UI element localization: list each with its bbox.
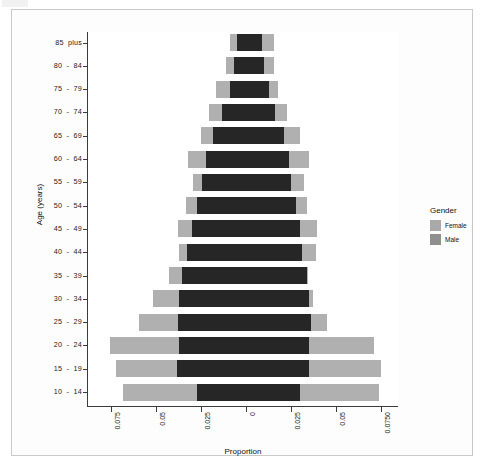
y-axis-tick-label: 25 - 29: [20, 317, 82, 327]
y-axis-tick-label-text: 40 - 44: [54, 247, 82, 256]
y-axis-tick-label-text: 15 - 19: [54, 364, 82, 373]
legend-swatch-female-icon: [430, 220, 441, 231]
bar-male: [197, 384, 300, 401]
x-axis-tick: [381, 407, 382, 412]
bar-male: [197, 197, 296, 214]
x-axis-tick: [336, 407, 337, 412]
y-axis-tick-label: 60 - 64: [20, 154, 82, 164]
legend-title: Gender: [430, 206, 485, 215]
x-axis-title: Proportion: [12, 447, 474, 456]
bar-male: [202, 174, 291, 191]
y-axis-tick-label-text: 65 - 69: [54, 131, 82, 140]
x-axis-tick: [156, 407, 157, 412]
x-axis-tick-label: 0.075: [114, 412, 121, 430]
x-axis-tick-label: 0.05: [339, 412, 346, 426]
x-axis-tick: [246, 407, 247, 412]
legend-label-male: Male: [445, 236, 459, 243]
legend-item-female[interactable]: Female: [430, 219, 485, 232]
y-axis-tick-label-text: 45 - 49: [54, 224, 82, 233]
y-axis-tick-label-text: 35 - 39: [54, 271, 82, 280]
x-axis-tick-label: 0.025: [294, 412, 301, 430]
y-axis-tick: [83, 299, 88, 300]
x-axis-tick-label: 0.025: [204, 412, 211, 430]
bar-male: [182, 267, 307, 284]
bar-male: [234, 57, 264, 74]
y-axis-tick: [83, 112, 88, 113]
y-axis-tick-label-text: 80 - 84: [54, 61, 82, 70]
bar-male: [179, 290, 309, 307]
bar-male: [206, 151, 289, 168]
y-axis-tick-label-text: 60 - 64: [54, 154, 82, 163]
y-axis-tick-label: 50 - 54: [20, 201, 82, 211]
y-axis-tick-label: 80 - 84: [20, 61, 82, 71]
y-axis-tick-label: 20 - 24: [20, 340, 82, 350]
y-axis-tick-label: 65 - 69: [20, 131, 82, 141]
legend-item-male[interactable]: Male: [430, 233, 485, 246]
y-axis-tick-label: 30 - 34: [20, 294, 82, 304]
y-axis-tick-label-text: 50 - 54: [54, 201, 82, 210]
x-axis-tick-label: 0.05: [159, 412, 166, 426]
x-axis-tick: [291, 407, 292, 412]
y-axis-tick: [83, 43, 88, 44]
bar-male: [230, 81, 269, 98]
y-axis-tick: [83, 229, 88, 230]
y-axis-tick-label: 85 plus: [20, 38, 82, 48]
y-axis-tick-label-text: 30 - 34: [54, 294, 82, 303]
x-axis-tick: [111, 407, 112, 412]
bar-male: [177, 360, 309, 377]
y-axis-tick: [83, 136, 88, 137]
y-axis-tick-label: 40 - 44: [20, 247, 82, 257]
y-axis-tick-label-text: 75 - 79: [54, 84, 82, 93]
y-axis-tick-label: 15 - 19: [20, 364, 82, 374]
y-axis-tick-label: 10 - 14: [20, 387, 82, 397]
y-axis-tick-label: 35 - 39: [20, 271, 82, 281]
y-axis-tick-label-text: 85 plus: [55, 38, 82, 47]
y-axis-tick: [83, 252, 88, 253]
y-axis-tick: [83, 392, 88, 393]
chart-root: 85 plus80 - 8475 - 7970 - 7465 - 6960 - …: [0, 0, 485, 465]
x-axis-tick-label: 0: [249, 412, 256, 416]
y-axis-tick: [83, 369, 88, 370]
y-axis-tick-label-text: 25 - 29: [54, 317, 82, 326]
y-axis-tick-label: 45 - 49: [20, 224, 82, 234]
x-axis-line: [87, 406, 398, 407]
y-axis-tick-label-text: 20 - 24: [54, 340, 82, 349]
y-axis-tick: [83, 182, 88, 183]
y-axis-tick-label: 55 - 59: [20, 177, 82, 187]
bar-male: [178, 314, 311, 331]
y-axis-tick-label-text: 10 - 14: [54, 387, 82, 396]
y-axis-tick: [83, 345, 88, 346]
y-axis-tick: [83, 66, 88, 67]
y-axis-tick-label: 75 - 79: [20, 84, 82, 94]
y-axis-title: Age (years): [35, 165, 44, 245]
legend: Gender Female Male: [430, 206, 485, 247]
y-axis-tick: [83, 159, 88, 160]
bar-male: [192, 220, 300, 237]
legend-label-female: Female: [445, 222, 467, 229]
y-axis-tick-label-text: 55 - 59: [54, 177, 82, 186]
y-axis-tick-label-text: 70 - 74: [54, 107, 82, 116]
figure-frame: 85 plus80 - 8475 - 7970 - 7465 - 6960 - …: [11, 9, 473, 456]
bar-male: [187, 244, 302, 261]
bar-male: [179, 337, 309, 354]
bar-male: [213, 127, 284, 144]
bar-male: [222, 104, 275, 121]
y-axis-tick: [83, 89, 88, 90]
y-axis-tick: [83, 206, 88, 207]
x-axis-tick: [201, 407, 202, 412]
x-axis-tick-label: 0.0750: [384, 412, 391, 433]
bar-male: [237, 34, 262, 51]
y-axis-tick: [83, 322, 88, 323]
legend-swatch-male-icon: [430, 234, 441, 245]
y-axis-tick: [83, 276, 88, 277]
y-axis-tick-label: 70 - 74: [20, 107, 82, 117]
scan-artifact: [2, 0, 28, 7]
